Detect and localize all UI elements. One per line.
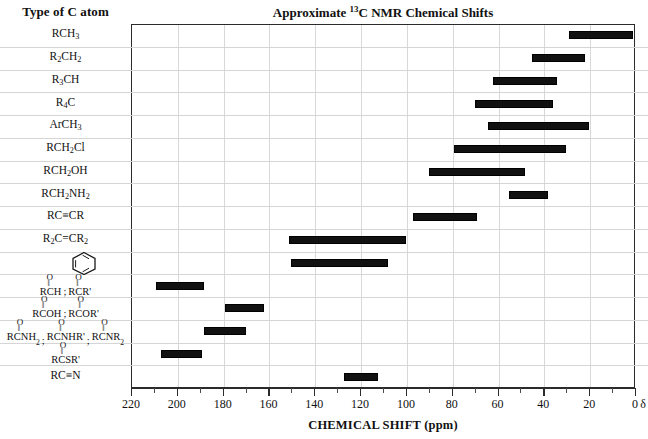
minor-tick-110 [383, 388, 384, 393]
row-label-r2ch2: R2CH2 [0, 50, 131, 63]
shift-range-bar-thioester [161, 350, 202, 358]
row-separator [0, 70, 648, 71]
row-separator [0, 252, 648, 253]
minor-tick-190 [200, 388, 201, 393]
tick-label-200: 200 [157, 397, 197, 412]
isotope-superscript: 13 [350, 4, 359, 14]
left-column-header: Type of C atom [0, 4, 131, 20]
row-label-nitrile: RC≡N [0, 369, 131, 381]
major-tick-100 [406, 388, 407, 396]
shift-range-bar-RCH2OH [429, 168, 525, 176]
row-label-rch2oh: RCH2OH [0, 164, 131, 177]
oxygen-atom: O [68, 296, 99, 303]
formula-group: O‖RCSR' [51, 342, 80, 365]
minor-tick-10 [612, 388, 613, 393]
oxygen-atom: O [51, 342, 80, 349]
minor-tick-210 [154, 388, 155, 393]
oxygen-atom: O [47, 319, 85, 326]
major-tick-20 [589, 388, 590, 396]
major-tick-60 [498, 388, 499, 396]
tick-label-40: 40 [523, 397, 563, 412]
row-separator [0, 92, 648, 93]
shift-range-bar-nitrile [344, 373, 378, 381]
tick-label-180: 180 [203, 397, 243, 412]
row-label-r4c: R4C [0, 96, 131, 109]
major-tick-0 [635, 388, 636, 396]
minor-tick-30 [566, 388, 567, 393]
row-label-rch2cl: RCH2Cl [0, 141, 131, 154]
shift-range-bar-benzene-ring [291, 259, 387, 267]
tick-label-80: 80 [432, 397, 472, 412]
row-label-rch2nh2: RCH2NH2 [0, 187, 131, 200]
oxygen-atom: O [68, 274, 91, 281]
row-label-alkyne: RC≡CR [0, 209, 131, 221]
shift-range-bar-RC≡CR [413, 213, 477, 221]
row-separator [0, 183, 648, 184]
shift-range-bar-RCH2Cl [454, 145, 566, 153]
shift-range-bar-amide [204, 327, 245, 335]
formula-base: RCOR' [68, 308, 99, 319]
shift-range-bar-acid-ester [225, 304, 264, 312]
shift-range-bar-RCH3 [569, 31, 633, 39]
major-tick-220 [131, 388, 132, 396]
major-tick-80 [452, 388, 453, 396]
shift-range-bar-R2CH2 [532, 54, 585, 62]
x-axis-title: CHEMICAL SHIFT (ppm) [131, 418, 635, 433]
tick-label-140: 140 [294, 397, 334, 412]
oxygen-atom: O [7, 319, 40, 326]
row-separator [0, 365, 648, 366]
row-label-aldehyde-ketone: O‖RCH;O‖RCR' [0, 274, 131, 298]
minor-tick-90 [429, 388, 430, 393]
formula-group: O‖RCOH [32, 296, 61, 319]
chart-title-pre: Approximate [273, 5, 350, 20]
major-tick-180 [223, 388, 224, 396]
tick-label-220: 220 [111, 397, 151, 412]
formula-group: O‖RCOR' [68, 296, 99, 319]
row-label-rch3: RCH3 [0, 27, 131, 40]
shift-range-bar-R4C [475, 100, 553, 108]
shift-range-bar-R3CH [493, 77, 557, 85]
tick-label-160: 160 [248, 397, 288, 412]
row-separator [0, 206, 648, 207]
major-tick-200 [177, 388, 178, 396]
row-separator [0, 161, 648, 162]
chart-title-post: C NMR Chemical Shifts [359, 5, 494, 20]
major-tick-120 [360, 388, 361, 396]
row-label-alkene: R2C=CR2 [0, 232, 131, 245]
shift-range-bar-RCH2NH2 [509, 191, 548, 199]
oxygen-atom: O [32, 296, 61, 303]
tick-label-20: 20 [569, 397, 609, 412]
row-label-arch3: ArCH3 [0, 118, 131, 131]
oxygen-atom: O [40, 274, 62, 281]
major-tick-140 [314, 388, 315, 396]
shift-range-bar-aldehyde-ketone [156, 282, 204, 290]
tick-label-120: 120 [340, 397, 380, 412]
minor-tick-130 [337, 388, 338, 393]
row-separator [0, 138, 648, 139]
row-separator [0, 47, 648, 48]
shift-range-bar-R2C=CR2 [289, 236, 406, 244]
formula-base: RCOH [32, 308, 61, 319]
minor-tick-150 [291, 388, 292, 393]
row-separator [0, 229, 648, 230]
shift-range-bar-ArCH3 [488, 122, 589, 130]
row-label-r3ch: R3CH [0, 73, 131, 86]
tick-label-60: 60 [478, 397, 518, 412]
tick-label-100: 100 [386, 397, 426, 412]
row-label-thioester: O‖RCSR' [0, 342, 131, 366]
major-tick-40 [543, 388, 544, 396]
chart-title: Approximate 13C NMR Chemical Shifts [131, 4, 635, 21]
formula-group: O‖RCH [40, 274, 62, 297]
tick-label-0: 0 δ [619, 397, 648, 412]
formula-group: O‖RCR' [68, 274, 91, 297]
minor-tick-170 [246, 388, 247, 393]
formula-base: RCSR' [51, 354, 80, 365]
major-tick-160 [268, 388, 269, 396]
minor-tick-70 [475, 388, 476, 393]
nmr-chemical-shift-chart: Type of C atom Approximate 13C NMR Chemi… [0, 0, 648, 439]
formula-group: O‖RCNHR' [47, 319, 85, 342]
oxygen-atom: O [92, 319, 124, 326]
row-separator [0, 115, 648, 116]
minor-tick-50 [520, 388, 521, 393]
